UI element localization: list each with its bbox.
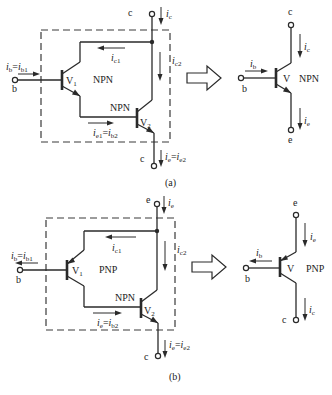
current-ic1-label: ic1 xyxy=(111,52,121,65)
current-ie-label: ie=ie2 xyxy=(165,151,186,164)
current-ic-label: ic xyxy=(304,41,310,54)
terminal-b-label: b xyxy=(12,83,17,94)
composite-npn-darlington: c ic ic1 ic2 V1 NPN xyxy=(6,7,186,169)
current-arrow-icon xyxy=(298,51,303,58)
terminal-e-label: e xyxy=(288,134,293,145)
current-arrow-icon xyxy=(249,259,256,264)
base-terminal xyxy=(238,75,243,80)
emitter-terminal xyxy=(151,163,156,168)
current-arrow-icon xyxy=(33,72,40,77)
type-label: PNP xyxy=(306,263,325,274)
v1-type-label: PNP xyxy=(99,264,118,275)
v2-type-label: NPN xyxy=(115,292,135,303)
current-ie1-label: ie1=ib2 xyxy=(93,127,118,140)
current-arrow-icon xyxy=(159,160,164,167)
terminal-b-label: b xyxy=(245,273,250,284)
current-ic2-label: ic2 xyxy=(177,244,187,257)
collector-terminal xyxy=(293,317,298,322)
current-ic-label: ic xyxy=(309,304,315,317)
emitter-arrow-icon xyxy=(283,87,291,94)
terminal-b-label: b xyxy=(16,274,21,285)
terminal-c-label: c xyxy=(282,314,287,325)
current-ie1-label: ie=ib2 xyxy=(97,317,119,330)
current-arrow-icon xyxy=(298,123,303,130)
current-ib-label: ib=ib1 xyxy=(11,250,33,263)
current-ie-label: ie xyxy=(304,115,310,128)
collector-terminal xyxy=(288,22,293,27)
current-arrow-icon xyxy=(303,240,308,247)
current-ic-label: ic xyxy=(166,8,172,21)
terminal-c-label: c xyxy=(128,7,133,18)
v1-label: V1 xyxy=(66,75,77,88)
current-arrow-icon xyxy=(162,207,167,214)
base-terminal xyxy=(17,267,22,272)
current-arrow-icon xyxy=(303,314,308,321)
current-arrow-icon xyxy=(107,121,114,126)
caption-b: (b) xyxy=(169,371,181,383)
equivalent-pnp-transistor: e c b ib ie V PNP ic xyxy=(243,197,324,325)
emitter-terminal xyxy=(293,212,298,217)
type-label: NPN xyxy=(299,73,319,84)
v-label: V xyxy=(283,73,291,84)
composite-pnp-darlington: e ie ic1 ic2 V1 PNP xyxy=(11,194,190,362)
current-ic2-label: ic2 xyxy=(172,55,182,68)
terminal-e-label: e xyxy=(146,194,151,205)
terminal-c-label: c xyxy=(144,351,149,362)
transform-arrow-icon xyxy=(192,255,226,279)
current-ib-label: ib=ib1 xyxy=(6,61,28,74)
current-ie-top-label: ie xyxy=(168,197,174,210)
darlington-diagram: c ic ic1 ic2 V1 NPN xyxy=(0,0,332,395)
v1-type-label: NPN xyxy=(93,74,113,85)
collector-terminal xyxy=(155,353,160,358)
current-arrow-icon xyxy=(105,235,112,240)
current-ie-label: ie xyxy=(310,231,316,244)
current-arrow-icon xyxy=(97,46,104,51)
current-arrow-icon xyxy=(158,74,163,81)
equivalent-npn-transistor: c e b ib ic V NPN ie xyxy=(238,6,319,145)
terminal-c-label: c xyxy=(288,6,293,17)
terminal-e-label: e xyxy=(293,197,298,208)
current-arrow-icon xyxy=(163,351,168,358)
panel-a: c ic ic1 ic2 V1 NPN xyxy=(6,6,319,189)
base-terminal xyxy=(243,265,248,270)
terminal-e-label: c xyxy=(140,153,145,164)
current-ie-label: ie=ie2 xyxy=(169,339,190,352)
terminal-b-label: b xyxy=(242,83,247,94)
emitter-arrow-icon xyxy=(72,90,80,97)
caption-a: (a) xyxy=(165,177,176,189)
v1-label: V1 xyxy=(72,265,83,278)
current-arrow-icon xyxy=(115,311,122,316)
base-terminal xyxy=(12,77,17,82)
transform-arrow-icon xyxy=(187,66,221,90)
emitter-terminal xyxy=(288,127,293,132)
current-ib-label: ib xyxy=(256,247,263,260)
current-arrow-icon xyxy=(261,69,268,74)
current-arrow-icon xyxy=(159,18,164,25)
collector-terminal xyxy=(149,11,154,16)
current-ib-label: ib xyxy=(250,58,257,71)
current-ic1-label: ic1 xyxy=(112,242,122,255)
current-arrow-icon xyxy=(163,264,168,271)
v2-type-label: NPN xyxy=(110,102,130,113)
panel-b: e ie ic1 ic2 V1 PNP xyxy=(11,194,325,383)
emitter-terminal xyxy=(154,201,159,206)
v-label: V xyxy=(287,263,295,274)
